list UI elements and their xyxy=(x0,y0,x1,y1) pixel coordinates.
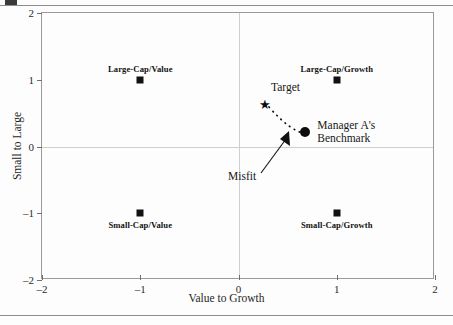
y-tick-label: –1 xyxy=(23,207,34,219)
x-tick-mark xyxy=(435,275,436,280)
x-tick-mark xyxy=(337,275,338,280)
x-axis-title: Value to Growth xyxy=(0,292,453,304)
y-tick-mark xyxy=(37,147,42,148)
plot-area: 210–1–2 –2–1012 Large-Cap/ValueLarge-Cap… xyxy=(41,12,434,279)
x-tick-mark xyxy=(42,275,43,280)
x-tick-mark xyxy=(140,275,141,280)
y-tick-mark xyxy=(37,280,42,281)
benchmark-line2: Benchmark xyxy=(317,132,370,144)
point-label-manager-a-s-benchmark: Manager A'sBenchmark xyxy=(317,119,375,145)
misfit-arrow-head xyxy=(280,131,290,146)
point-label-large-cap-growth: Large-Cap/Growth xyxy=(300,64,373,74)
benchmark-line1: Manager A's xyxy=(317,119,375,131)
marker-small-cap-growth xyxy=(333,210,340,217)
y-axis-title-container: Small to Large xyxy=(10,0,24,325)
misfit-label: Misfit xyxy=(228,170,256,182)
zero-line-vertical xyxy=(239,13,240,278)
marker-manager-a-s-benchmark xyxy=(300,127,310,137)
y-tick-label: 0 xyxy=(29,141,35,153)
bottom-divider-rule xyxy=(0,315,453,316)
point-label-large-cap-value: Large-Cap/Value xyxy=(108,64,173,74)
y-tick-mark xyxy=(37,213,42,214)
y-tick-label: –2 xyxy=(23,274,34,286)
point-label-small-cap-value: Small-Cap/Value xyxy=(108,220,172,230)
y-tick-label: 2 xyxy=(29,7,35,19)
point-label-target: Target xyxy=(271,81,300,93)
misfit-arrow-shaft xyxy=(261,139,286,173)
marker-large-cap-value xyxy=(137,76,144,83)
top-divider-rule xyxy=(0,5,453,6)
marker-target: ★ xyxy=(259,100,271,109)
y-axis-title: Small to Large xyxy=(11,112,23,180)
marker-large-cap-growth xyxy=(333,76,340,83)
zero-line-horizontal xyxy=(42,147,433,148)
y-tick-mark xyxy=(37,13,42,14)
x-tick-mark xyxy=(239,275,240,280)
point-label-small-cap-growth: Small-Cap/Growth xyxy=(301,220,373,230)
y-tick-mark xyxy=(37,80,42,81)
chart-page: Small to Large 210–1–2 –2–1012 Large-Cap… xyxy=(0,0,453,325)
marker-small-cap-value xyxy=(137,210,144,217)
y-tick-label: 1 xyxy=(29,74,35,86)
